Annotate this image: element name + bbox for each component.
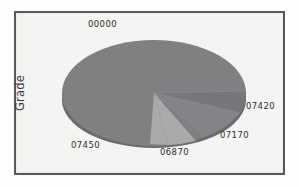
- plot-frame-inner-border: [16, 13, 283, 173]
- axis-label-grade: Grade: [13, 58, 29, 128]
- pie-label-00000: 00000: [88, 19, 117, 29]
- pie-chart-screenshot: Grade 00000 07420 07170 06870 07450: [0, 0, 299, 187]
- pie-label-07420: 07420: [246, 101, 275, 111]
- plot-frame: [14, 11, 285, 175]
- pie-label-07170: 07170: [220, 130, 249, 140]
- pie-label-06870: 06870: [160, 147, 189, 157]
- pie-label-07450: 07450: [71, 140, 100, 150]
